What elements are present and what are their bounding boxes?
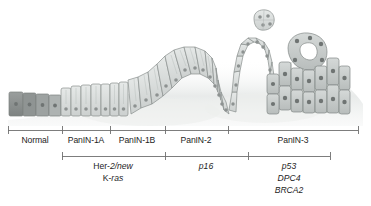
- gene-prefix-kras: K-: [103, 173, 112, 183]
- epithelium-normal: [9, 92, 61, 116]
- gene-italic-her2: 2/new: [110, 161, 133, 171]
- gene-label-her2neu: Her-2/new: [93, 161, 133, 171]
- gene-label-p16: p16: [199, 161, 213, 171]
- stage-label-panin-2: PanIN-2: [181, 135, 212, 145]
- gene-label-dpc4: DPC4: [278, 173, 301, 183]
- panin-progression-figure: Normal PanIN-1A PanIN-1B PanIN-2 PanIN-3…: [0, 0, 371, 206]
- gene-label-p53: p53: [282, 161, 296, 171]
- epithelium-panin3: [267, 33, 350, 114]
- stage-label-panin-1a: PanIN-1A: [68, 135, 104, 145]
- gene-italic-kras: ras: [111, 173, 123, 183]
- epithelium-panin1a: [61, 84, 110, 116]
- stage-label-panin-3: PanIN-3: [278, 135, 309, 145]
- gene-prefix-her2: Her-: [93, 161, 110, 171]
- histology-illustration: [0, 0, 371, 132]
- annotation-axes: Normal PanIN-1A PanIN-1B PanIN-2 PanIN-3…: [0, 124, 371, 206]
- stage-label-normal: Normal: [21, 135, 48, 145]
- detached-cell-cluster: [254, 10, 275, 30]
- stage-label-panin-1b: PanIN-1B: [119, 135, 155, 145]
- gene-label-brca2: BRCA2: [275, 185, 304, 195]
- gene-label-kras: K-ras: [103, 173, 124, 183]
